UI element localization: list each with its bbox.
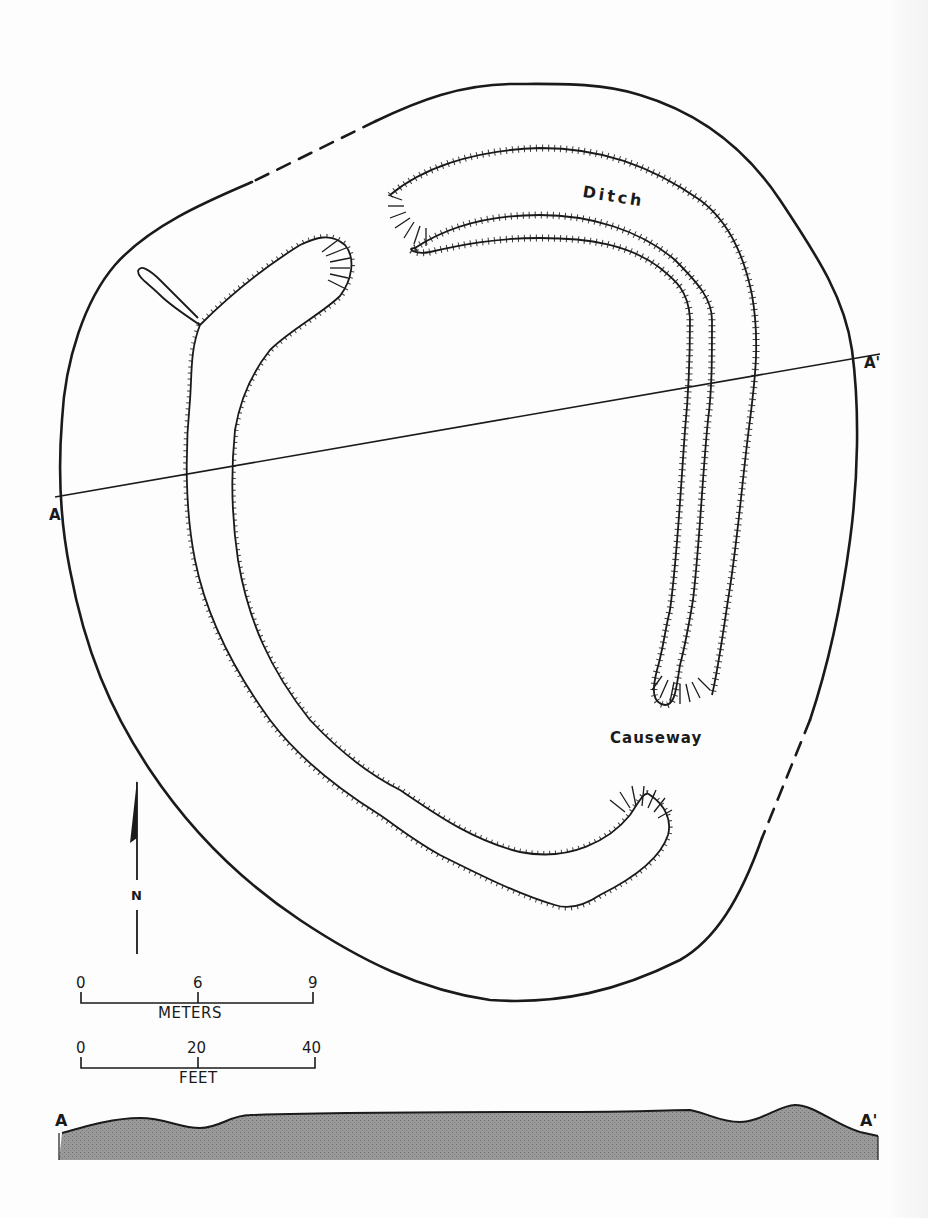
ditch-terminals	[322, 195, 710, 818]
feet-tick-20: 20	[187, 1041, 206, 1056]
feet-tick-0: 0	[76, 1041, 86, 1056]
boundary-dashed-southeast	[762, 720, 810, 838]
profile-start-label: A	[55, 1113, 67, 1129]
ditch-west-outline	[187, 237, 669, 907]
meters-unit-label: METERS	[158, 1006, 222, 1021]
feet-unit-label: FEET	[179, 1071, 218, 1086]
boundary-dashed-north	[252, 121, 376, 182]
section-start-label: A	[49, 508, 61, 523]
terminal-east-south	[652, 676, 710, 704]
terminal-north	[388, 195, 426, 246]
feet-tick-40: 40	[302, 1041, 321, 1056]
ditch-east-segment	[390, 148, 756, 705]
cross-section-profile	[59, 1105, 878, 1160]
section-end-label: A'	[864, 356, 880, 371]
north-arrow-head-icon	[130, 780, 137, 843]
profile-end-label: A'	[860, 1113, 877, 1129]
north-label: N	[131, 889, 142, 902]
ditch-east-outer-edge	[390, 148, 756, 695]
drainage-channel	[138, 268, 200, 325]
meters-tick-0: 0	[76, 976, 86, 991]
meters-tick-6: 6	[193, 976, 203, 991]
ditch-east-hachures	[411, 215, 712, 705]
section-line-a-a-prime	[55, 354, 880, 497]
ditch-west-segment	[138, 237, 669, 907]
ditch-east-inner-edge	[411, 215, 712, 705]
north-arrow	[130, 780, 137, 954]
site-plan	[0, 0, 928, 1218]
meters-tick-9: 9	[308, 976, 318, 991]
boundary-solid-east	[376, 84, 857, 720]
causeway-label: Causeway	[610, 731, 702, 746]
scale-bar-meters	[81, 992, 313, 1003]
boundary-solid-west	[60, 182, 762, 1001]
ditch-east-outer-hachures	[390, 148, 756, 695]
profile-fill	[59, 1105, 878, 1160]
scale-bar-feet	[81, 1057, 315, 1068]
